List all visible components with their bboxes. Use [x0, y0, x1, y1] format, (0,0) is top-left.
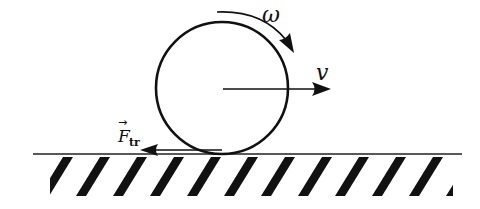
- omega-label: ω: [262, 2, 280, 27]
- velocity-arrow: [223, 82, 331, 96]
- velocity-label: v: [316, 60, 329, 85]
- rolling-wheel-diagram: v ω F tr →: [0, 0, 480, 209]
- ground-hatching: [2, 157, 480, 196]
- friction-label: F tr →: [117, 116, 140, 149]
- vector-mark-icon: →: [118, 116, 127, 129]
- wheel-circle: [156, 22, 288, 154]
- friction-label-subscript: tr: [129, 136, 140, 149]
